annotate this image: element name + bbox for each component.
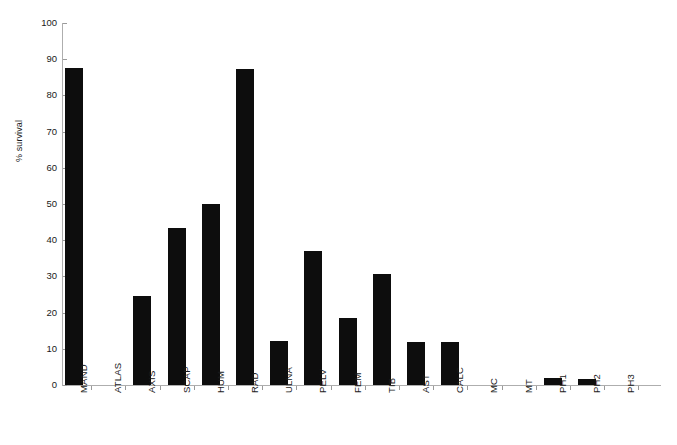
y-tick-mark bbox=[63, 23, 67, 24]
y-tick-label: 0 bbox=[24, 380, 57, 389]
x-tick-label-scap: SCAP bbox=[181, 366, 192, 393]
x-tick-mark bbox=[331, 386, 332, 390]
x-tick-mark bbox=[365, 386, 366, 390]
bar-rad bbox=[236, 69, 254, 385]
bar-scap bbox=[168, 228, 186, 385]
x-tick-label-ast: AST bbox=[420, 374, 431, 393]
x-tick-mark bbox=[467, 386, 468, 390]
y-tick-mark bbox=[63, 385, 67, 386]
y-tick-label: 20 bbox=[24, 308, 57, 317]
x-tick-label-pelv: PELV bbox=[317, 369, 328, 393]
x-tick-mark bbox=[570, 386, 571, 390]
x-tick-mark bbox=[262, 386, 263, 390]
x-tick-label-mc: MC bbox=[488, 378, 499, 393]
bar-chart: % survival 0102030405060708090100 MANDAT… bbox=[0, 0, 677, 445]
y-tick-label: 80 bbox=[24, 90, 57, 99]
x-tick-label-tib: TIB bbox=[386, 378, 397, 393]
x-tick-mark bbox=[296, 386, 297, 390]
x-tick-mark bbox=[604, 386, 605, 390]
y-tick-mark bbox=[63, 59, 67, 60]
y-tick-label: 100 bbox=[24, 18, 57, 27]
x-tick-mark bbox=[91, 386, 92, 390]
x-tick-mark bbox=[433, 386, 434, 390]
x-tick-label-mand: MAND bbox=[78, 364, 89, 393]
y-tick-label: 60 bbox=[24, 163, 57, 172]
x-tick-mark bbox=[125, 386, 126, 390]
x-tick-label-ph1: PH1 bbox=[557, 374, 568, 393]
y-tick-label: 30 bbox=[24, 271, 57, 280]
bar-hum bbox=[202, 204, 220, 385]
x-tick-mark bbox=[638, 386, 639, 390]
x-tick-label-rad: RAD bbox=[249, 372, 260, 393]
y-tick-label: 40 bbox=[24, 235, 57, 244]
x-tick-label-atlas: ATLAS bbox=[112, 363, 123, 393]
x-tick-mark bbox=[160, 386, 161, 390]
x-tick-mark bbox=[228, 386, 229, 390]
x-tick-label-ulna: ULNA bbox=[283, 367, 294, 393]
bar-pelv bbox=[304, 251, 322, 385]
y-tick-label: 50 bbox=[24, 199, 57, 208]
x-tick-mark bbox=[502, 386, 503, 390]
y-tick-label: 70 bbox=[24, 127, 57, 136]
x-tick-label-fem: FEM bbox=[352, 372, 363, 393]
bar-tib bbox=[373, 274, 391, 385]
x-tick-mark bbox=[536, 386, 537, 390]
bar-mand bbox=[65, 68, 83, 385]
x-tick-label-mt: MT bbox=[523, 379, 534, 393]
y-tick-label: 10 bbox=[24, 344, 57, 353]
x-tick-label-hum: HUM bbox=[215, 371, 226, 393]
x-tick-mark bbox=[194, 386, 195, 390]
x-tick-label-calc: CALC bbox=[454, 367, 465, 393]
x-tick-label-ph2: PH2 bbox=[591, 374, 602, 393]
x-tick-label-ph3: PH3 bbox=[625, 374, 636, 393]
y-tick-label: 90 bbox=[24, 54, 57, 63]
x-tick-label-axis: AXIS bbox=[146, 371, 157, 393]
x-tick-mark bbox=[399, 386, 400, 390]
